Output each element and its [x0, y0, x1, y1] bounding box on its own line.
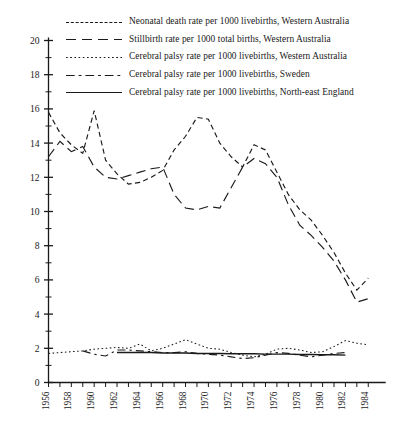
y-tick-label: 10	[30, 206, 40, 217]
series-line-stillbirth-rate-wa	[49, 141, 369, 302]
y-tick-label: 14	[30, 138, 40, 149]
x-tick-label: 1974	[246, 391, 256, 410]
chart-svg: 02468101214161820 1956195819601962196419…	[0, 0, 400, 436]
x-tick-label: 1968	[178, 391, 188, 410]
x-tick-label: 1970	[200, 391, 210, 410]
y-tick-label: 8	[35, 240, 40, 251]
y-axis-tick-labels: 02468101214161820	[30, 35, 40, 388]
x-tick-label: 1966	[155, 391, 165, 410]
data-series	[49, 111, 369, 359]
x-tick-label: 1958	[63, 391, 73, 410]
x-axis-tick-labels: 1956195819601962196419661968197019721974…	[41, 391, 371, 410]
series-line-neonatal-death-rate-wa	[49, 111, 369, 291]
y-tick-label: 2	[35, 343, 40, 354]
y-tick-label: 4	[35, 309, 40, 320]
plot-area: 02468101214161820 1956195819601962196419…	[0, 0, 400, 436]
y-tick-label: 20	[30, 35, 40, 46]
chart-root: Neonatal death rate per 1000 livebirths,…	[0, 0, 400, 436]
x-tick-label: 1962	[109, 391, 119, 410]
x-tick-label: 1980	[315, 391, 325, 410]
axes	[44, 38, 386, 388]
x-tick-label: 1964	[132, 391, 142, 410]
x-tick-label: 1972	[223, 391, 233, 410]
x-tick-label: 1976	[269, 391, 279, 410]
y-tick-label: 16	[30, 103, 40, 114]
y-tick-label: 12	[30, 172, 40, 183]
y-tick-label: 0	[35, 377, 40, 388]
x-tick-label: 1984	[360, 391, 370, 410]
x-tick-label: 1956	[41, 391, 51, 410]
x-tick-label: 1960	[86, 391, 96, 410]
x-tick-label: 1978	[292, 391, 302, 410]
y-tick-label: 18	[30, 69, 40, 80]
x-tick-label: 1982	[337, 391, 347, 410]
y-tick-label: 6	[35, 274, 40, 285]
